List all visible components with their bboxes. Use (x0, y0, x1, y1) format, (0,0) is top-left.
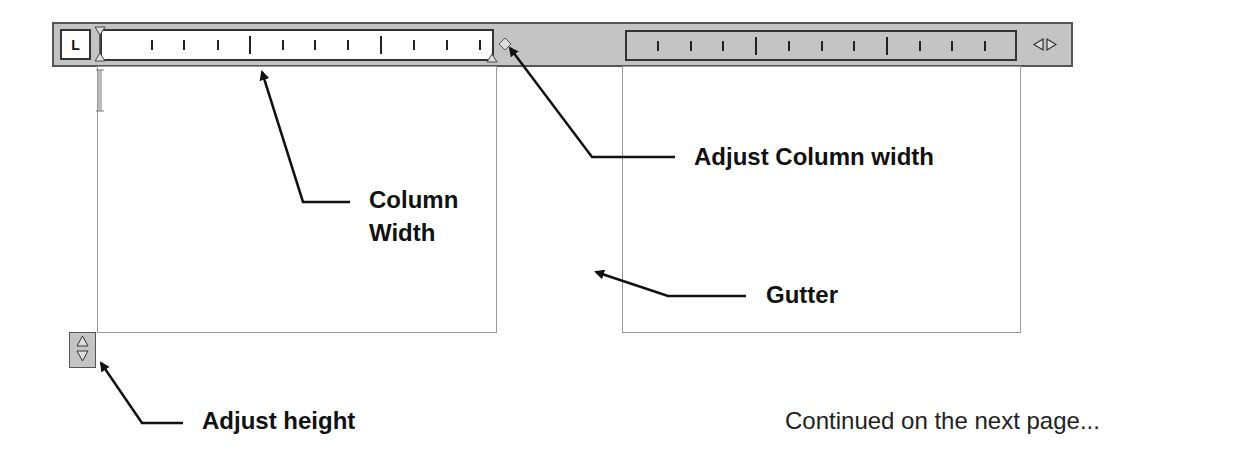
triangle-marker-icon[interactable] (95, 27, 105, 61)
adjust-column-width-callout-arrow (510, 48, 675, 157)
column-width-callout-arrow (262, 72, 350, 202)
column-width-label-line1: Column (369, 185, 458, 215)
diamond-handle-icon[interactable] (499, 38, 511, 50)
left-right-arrows-icon[interactable] (1034, 39, 1056, 50)
ibeam-cursor-icon (96, 70, 104, 111)
gutter-callout-arrow (596, 272, 746, 296)
column-width-label-line2: Width (369, 218, 435, 248)
up-down-arrows-icon[interactable] (77, 336, 88, 361)
triangle-marker-icon[interactable] (487, 54, 497, 62)
adjust-height-label: Adjust height (202, 406, 355, 436)
diagram-overlay (0, 0, 1253, 468)
adjust-column-width-label: Adjust Column width (694, 142, 934, 172)
continued-note: Continued on the next page... (785, 406, 1100, 436)
adjust-height-callout-arrow (101, 363, 183, 423)
gutter-label: Gutter (766, 280, 838, 310)
